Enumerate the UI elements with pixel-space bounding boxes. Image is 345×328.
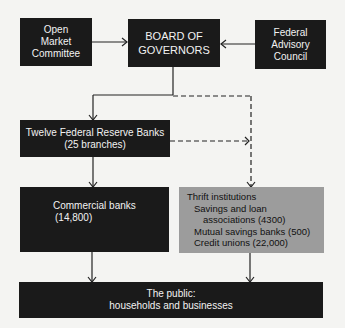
node-text: (14,800) [53, 212, 169, 224]
federal-reserve-banks-box: Twelve Federal Reserve Banks (25 branche… [20, 120, 170, 157]
federal-advisory-council-box: Federal Advisory Council [255, 20, 326, 69]
node-text: Advisory [271, 39, 309, 51]
commercial-banks-box: Commercial banks (14,800) [20, 187, 169, 252]
node-text: The public: [147, 288, 196, 300]
node-text: Thrift institutions [187, 191, 324, 203]
open-market-committee-box: Open Market Committee [20, 18, 92, 66]
thrift-institutions-box: Thrift institutions Savings and loan ass… [179, 187, 324, 253]
node-text: Committee [32, 48, 80, 60]
node-text: BOARD OF [145, 29, 202, 43]
node-text: Twelve Federal Reserve Banks [26, 127, 164, 139]
node-text: Federal [274, 27, 308, 39]
node-text: associations (4300) [187, 214, 324, 226]
node-text: Commercial banks [53, 200, 169, 212]
board-of-governors-box: BOARD OF GOVERNORS [128, 19, 220, 67]
node-text: Market [41, 36, 72, 48]
node-text: households and businesses [109, 300, 232, 312]
public-box: The public: households and businesses [19, 282, 323, 318]
node-text: Credit unions (22,000) [187, 237, 324, 249]
node-text: Savings and loan [187, 203, 324, 215]
node-text: Open [44, 24, 68, 36]
node-text: (25 branches) [64, 139, 126, 151]
node-text: Council [274, 51, 307, 63]
node-text: GOVERNORS [138, 43, 210, 57]
node-text: Mutual savings banks (500) [187, 226, 324, 238]
